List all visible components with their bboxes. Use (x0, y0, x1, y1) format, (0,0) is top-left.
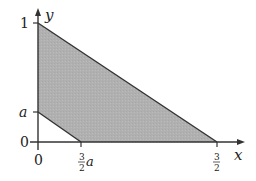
x-tick-label-three-halves-a: 3 2 a (78, 152, 94, 173)
svg-text:3: 3 (214, 152, 220, 162)
svg-text:3: 3 (79, 152, 85, 162)
x-axis-label: x (234, 146, 243, 164)
y-tick-label-zero: 0 (20, 134, 29, 150)
diagram-canvas: y x 1 a 0 0 3 2 a 3 2 (0, 0, 256, 181)
x-tick-label-three-halves: 3 2 (213, 152, 220, 173)
y-tick-label-a: a (19, 104, 27, 120)
svg-text:2: 2 (79, 163, 85, 173)
y-axis-arrow-icon (35, 8, 41, 16)
x-axis-arrow-icon (237, 139, 245, 145)
y-axis-label: y (44, 6, 54, 24)
svg-text:2: 2 (214, 163, 220, 173)
svg-text:a: a (86, 154, 94, 169)
y-tick-label-one: 1 (20, 15, 29, 31)
x-tick-label-zero: 0 (34, 152, 43, 168)
